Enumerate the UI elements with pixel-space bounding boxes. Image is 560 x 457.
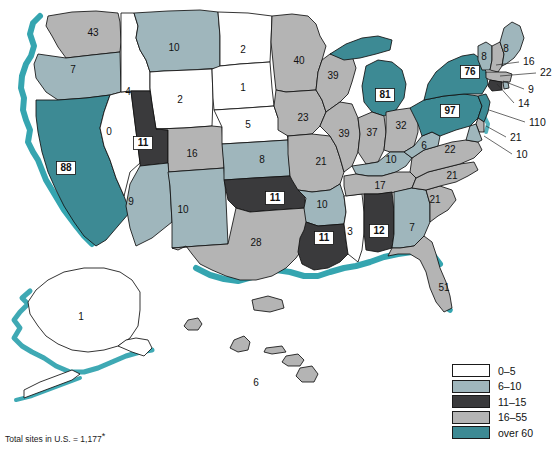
state-value-TN: 17 (374, 180, 386, 191)
state-AL[interactable] (364, 192, 394, 252)
legend-swatch-c16_55 (452, 411, 490, 424)
state-value-WY: 2 (177, 94, 183, 105)
state-value-VA: 22 (444, 144, 456, 155)
state-value-ME: 8 (503, 43, 509, 54)
state-value-AL: 12 (373, 225, 385, 236)
state-value-LA: 11 (319, 232, 330, 243)
state-value-WA: 43 (87, 27, 99, 38)
state-value-WI: 39 (327, 70, 339, 81)
legend-item-cover60[interactable]: over 60 (452, 425, 556, 441)
state-OR[interactable] (34, 52, 121, 100)
state-value-GA: 7 (409, 222, 415, 233)
state-value-CA: 88 (60, 162, 72, 173)
legend-swatch-cover60 (452, 426, 490, 439)
state-HI-maui[interactable] (282, 354, 304, 366)
legend-item-c11_15[interactable]: 11–15 (452, 394, 556, 410)
state-value-FL: 51 (438, 282, 450, 293)
state-value-MT: 10 (168, 42, 180, 53)
state-CT[interactable] (488, 80, 502, 91)
legend-swatch-c0_5 (452, 364, 490, 377)
state-value-MS: 3 (347, 226, 353, 237)
legend-label-c6_10: 6–10 (498, 381, 521, 392)
state-value-SC: 21 (429, 194, 441, 205)
state-value-NV: 0 (106, 126, 112, 137)
state-value-AK: 1 (78, 311, 84, 322)
state-value-UT: 11 (138, 137, 149, 148)
legend-item-c16_55[interactable]: 16–55 (452, 410, 556, 426)
legend-label-c16_55: 16–55 (498, 412, 527, 423)
callout-value-NJ: 110 (529, 116, 546, 128)
callout-value-MD: 10 (516, 148, 528, 160)
state-value-ID: 4 (125, 86, 131, 97)
legend-item-c6_10[interactable]: 6–10 (452, 379, 556, 395)
callout-value-MA: 22 (540, 66, 552, 78)
legend-label-c0_5: 0–5 (498, 366, 516, 377)
state-MI-upper[interactable] (330, 36, 392, 60)
total-note-prefix: Total sites in U.S. = (5, 434, 80, 444)
state-value-OK: 11 (270, 192, 281, 203)
legend-label-cover60: over 60 (498, 428, 533, 439)
state-value-OR: 7 (70, 64, 76, 75)
state-IN[interactable] (358, 112, 386, 164)
state-value-SD: 1 (240, 82, 246, 93)
state-value-NC: 21 (446, 170, 458, 181)
state-LA[interactable] (298, 222, 348, 270)
legend-item-c0_5[interactable]: 0–5 (452, 363, 556, 379)
state-HI-hawaii[interactable] (296, 366, 318, 382)
total-note-asterisk: * (102, 431, 106, 441)
callout-line-MD (484, 136, 512, 154)
callout-value-NH: 16 (523, 55, 535, 67)
state-value-CO: 16 (186, 148, 198, 159)
total-sites-note: Total sites in U.S. = 1,177* (5, 434, 105, 444)
state-value-MO: 21 (315, 156, 327, 167)
state-value-WV: 6 (421, 140, 427, 151)
state-MI-lower[interactable] (362, 60, 406, 116)
state-value-KY: 10 (385, 154, 397, 165)
state-value-IA: 23 (297, 112, 309, 123)
state-value-KS: 8 (259, 154, 265, 165)
state-value-IL: 39 (338, 128, 350, 139)
legend-label-c11_15: 11–15 (498, 397, 526, 408)
state-value-OH: 32 (395, 120, 407, 131)
legend: 0–56–1011–1516–55over 60 (452, 363, 556, 441)
state-value-VT: 8 (481, 51, 487, 62)
state-value-IN: 37 (366, 127, 378, 138)
legend-swatch-c6_10 (452, 380, 490, 393)
state-value-HI: 6 (253, 377, 259, 388)
state-value-PA: 97 (444, 105, 456, 116)
state-ND[interactable] (218, 12, 272, 66)
state-value-NY: 76 (464, 66, 476, 77)
state-value-NM: 10 (177, 204, 189, 215)
state-value-TX: 28 (250, 237, 262, 248)
callout-value-RI: 9 (528, 83, 534, 95)
callout-value-CT: 14 (518, 97, 530, 109)
state-HI-kauai[interactable] (184, 318, 202, 330)
state-KS[interactable] (222, 140, 290, 180)
callout-line-NJ (489, 110, 525, 122)
state-HI-molokai[interactable] (264, 346, 286, 354)
legend-swatch-c11_15 (452, 395, 490, 408)
state-AK-aleutians[interactable] (24, 370, 80, 398)
state-value-AZ: 9 (128, 196, 134, 207)
state-value-NE: 5 (245, 119, 251, 130)
state-HI-oahu[interactable] (230, 336, 250, 352)
callout-line-DE (486, 126, 506, 137)
state-AK[interactable] (28, 268, 140, 352)
map-figure: 4378804102119101621581128402321101139393… (0, 0, 560, 457)
state-WA[interactable] (46, 11, 121, 58)
state-HI-island-nw[interactable] (252, 296, 284, 312)
total-note-value: 1,177 (80, 434, 101, 444)
state-value-AR: 10 (316, 199, 328, 210)
state-value-ND: 2 (240, 44, 246, 55)
state-value-MN: 40 (293, 55, 305, 66)
state-value-MI: 81 (379, 89, 391, 100)
callout-value-DE: 21 (510, 131, 522, 143)
